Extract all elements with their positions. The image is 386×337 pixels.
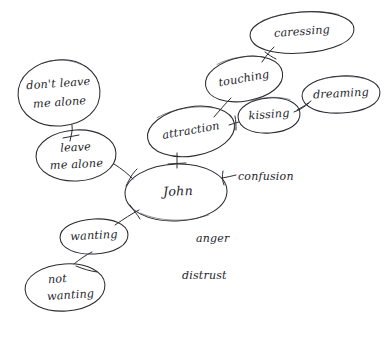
node-label-dreaming: dreaming — [313, 86, 370, 102]
edge-leave-to-john[interactable] — [114, 164, 137, 186]
node-wanting[interactable]: wanting — [59, 217, 129, 256]
edge-wanting-to-john[interactable] — [115, 205, 140, 225]
node-label-john: John — [160, 183, 193, 199]
node-label-dont-leave-me-alone-line2: me alone — [33, 94, 87, 111]
node-dreaming[interactable]: dreaming — [301, 74, 381, 115]
node-label-not-wanting-line2: wanting — [47, 287, 95, 303]
node-john[interactable]: John — [124, 162, 228, 223]
node-label-caressing: caressing — [274, 23, 331, 40]
node-not-wanting[interactable]: not wanting — [23, 261, 106, 313]
node-label-touching: touching — [217, 68, 270, 90]
node-label-not-wanting-line1: not — [47, 272, 67, 286]
free-labels-layer: confusion anger distrust — [182, 170, 294, 282]
node-label-attraction: attraction — [161, 119, 220, 142]
node-label-dont-leave-me-alone-line1: don't leave — [26, 75, 91, 92]
edge-attraction-to-john[interactable] — [168, 153, 186, 168]
mindmap-canvas: don't leave me alone leave me alone John… — [0, 0, 386, 337]
node-label-kissing: kissing — [248, 107, 290, 123]
node-leave-me-alone[interactable]: leave me alone — [35, 128, 118, 183]
edge-john-to-confusion[interactable] — [222, 171, 236, 185]
free-label-anger: anger — [196, 232, 230, 245]
node-touching[interactable]: touching — [202, 50, 287, 107]
edge-dont-leave-to-leave[interactable] — [63, 125, 79, 141]
free-label-distrust: distrust — [182, 269, 227, 282]
node-dont-leave-me-alone[interactable]: don't leave me alone — [16, 57, 102, 129]
free-label-confusion: confusion — [238, 170, 294, 183]
node-label-wanting: wanting — [70, 228, 118, 243]
mindmap-drawing: don't leave me alone leave me alone John… — [0, 0, 386, 337]
node-label-leave-me-alone-line2: me alone — [50, 157, 104, 173]
nodes-layer: don't leave me alone leave me alone John… — [16, 8, 381, 313]
node-label-leave-me-alone-line1: leave — [60, 140, 92, 155]
node-attraction[interactable]: attraction — [144, 100, 239, 164]
node-caressing[interactable]: caressing — [249, 8, 356, 56]
